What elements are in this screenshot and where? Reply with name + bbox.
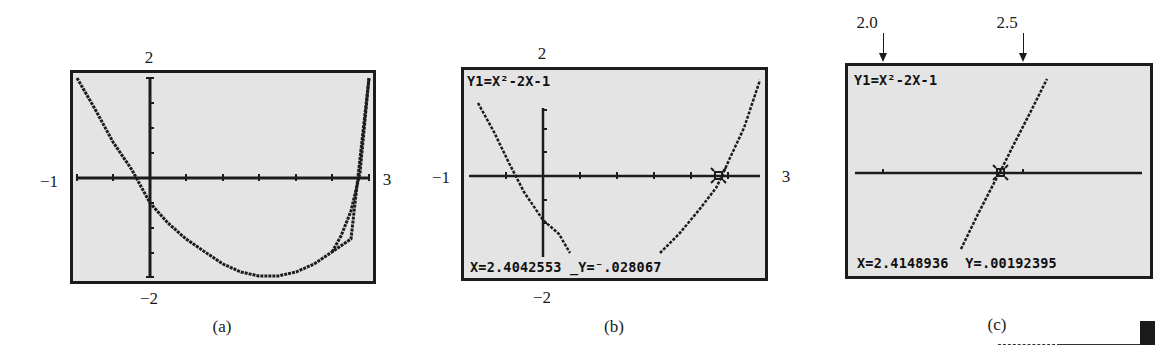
parabola-zoomed-segment bbox=[961, 79, 1047, 249]
parabola-trace-graph-b bbox=[464, 70, 765, 278]
solid-rule bbox=[1060, 344, 1151, 345]
xmax-label-b: 3 bbox=[782, 168, 791, 185]
ymin-label-a: −2 bbox=[140, 290, 158, 307]
parabola-right-branch bbox=[660, 80, 760, 253]
caption-a: (a) bbox=[213, 318, 232, 335]
arrow-label-2-0: 2.0 bbox=[856, 14, 877, 31]
xmin-label-a: −1 bbox=[40, 173, 58, 190]
dashed-rule bbox=[998, 344, 1060, 345]
zoomed-trace-graph-c bbox=[848, 66, 1150, 276]
ymax-label-b: 2 bbox=[538, 45, 547, 62]
equation-text-b: Y1=X²-2X-1 bbox=[467, 74, 550, 88]
trace-readout-c: X=2.4148936 Y=.00192395 bbox=[857, 256, 1057, 270]
calculator-screen-a bbox=[70, 70, 376, 284]
xmax-label-a: 3 bbox=[383, 171, 392, 188]
parabola-right-branch bbox=[332, 78, 369, 252]
end-mark-block bbox=[1140, 321, 1155, 345]
ymin-label-b: −2 bbox=[533, 289, 551, 306]
ymax-label-a: 2 bbox=[145, 49, 154, 66]
xmin-label-b: −1 bbox=[432, 169, 450, 186]
parabola-graph-a bbox=[73, 73, 373, 281]
parabola-left-branch bbox=[478, 103, 570, 253]
trace-readout-b: X=2.4042553 _Y=⁻.028067 bbox=[470, 260, 662, 274]
equation-text-c: Y1=X²-2X-1 bbox=[854, 73, 937, 87]
axis-ticks bbox=[506, 110, 728, 223]
arrow-label-2-5: 2.5 bbox=[996, 14, 1017, 31]
calculator-screen-b: Y1=X²-2X-1 X=2.4042553 _Y=⁻.028067 bbox=[461, 67, 768, 281]
caption-c: (c) bbox=[988, 316, 1007, 333]
calculator-screen-c: Y1=X²-2X-1 X=2.4148936 Y=.00192395 bbox=[845, 63, 1153, 279]
caption-b: (b) bbox=[604, 318, 624, 335]
